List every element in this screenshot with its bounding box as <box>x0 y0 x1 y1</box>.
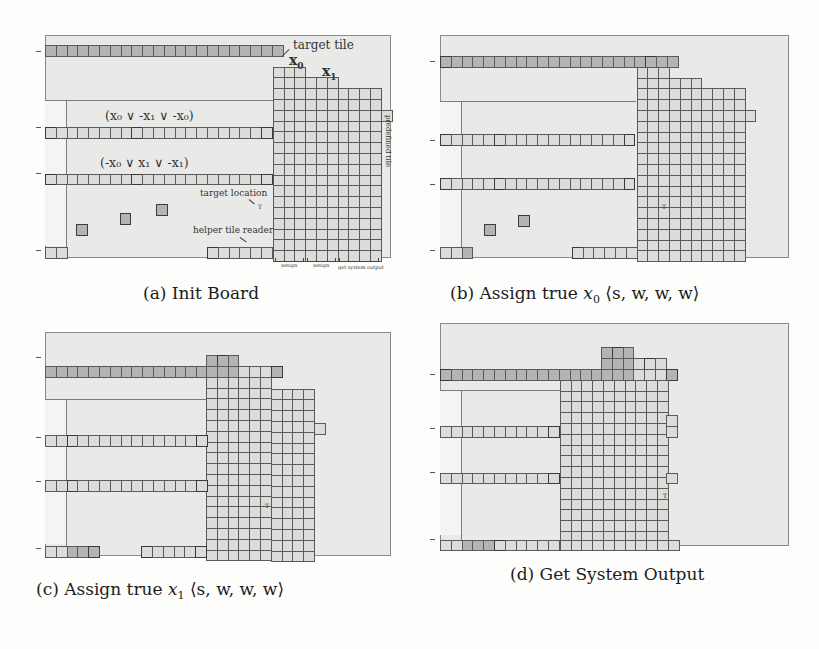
caption-b: (b) Assign true x0 ⟨s, w, w, w⟩ <box>450 283 699 306</box>
helper-reader-tile <box>261 247 273 259</box>
predefined-tile <box>314 423 326 435</box>
x1-label: x1 <box>322 63 337 82</box>
helper-tile <box>76 224 88 236</box>
bottom-row-tile <box>548 540 560 552</box>
helper-tile <box>484 224 496 236</box>
helper-reader-tile <box>626 247 638 259</box>
row-tick <box>36 548 41 549</box>
target-location-label: target location <box>200 188 267 198</box>
bottom-row-tile <box>88 546 100 558</box>
assign-label-1: assign <box>281 262 297 268</box>
caption-d: (d) Get System Output <box>510 564 704 584</box>
row-tick <box>430 250 435 251</box>
caption-c: (c) Assign true x1 ⟨s, w, w, w⟩ <box>36 579 284 602</box>
output-column-tile <box>734 250 746 262</box>
lane-divider <box>45 399 208 400</box>
predefined-tile <box>745 110 757 122</box>
row-tick <box>430 374 435 375</box>
clause-extension-tile <box>666 426 678 438</box>
left-lane <box>45 400 66 544</box>
clause-2-label: (-x₀ ∨ x₁ ∨ -x₁) <box>100 155 189 170</box>
left-lane <box>440 391 461 535</box>
clause-row-tile <box>548 426 560 438</box>
target-location-marker: T <box>258 203 262 210</box>
bottom-row-tile <box>56 247 68 259</box>
row-tick <box>36 173 41 174</box>
clause-row-tile <box>196 435 208 447</box>
get-system-output-label: get system output <box>338 264 384 270</box>
target-tile-row <box>271 366 283 378</box>
helper-reader-tile <box>195 546 207 558</box>
target-tile-label: target tile <box>293 38 354 52</box>
row-tick <box>430 539 435 540</box>
row-tick <box>36 51 41 52</box>
row-tick <box>36 437 41 438</box>
clause-row-tile <box>196 480 208 492</box>
clause-1-label: (x₀ ∨ -x₁ ∨ -x₀) <box>105 108 194 123</box>
target-location-marker: T <box>663 492 667 499</box>
row-tick <box>430 61 435 62</box>
row-tick <box>430 428 435 429</box>
clause-extension-tile <box>666 473 678 485</box>
row-tick <box>36 481 41 482</box>
target-location-marker: T <box>662 203 666 210</box>
clause-row-tile <box>624 178 636 190</box>
clause-row-tile <box>548 473 560 485</box>
helper-tile <box>518 215 530 227</box>
lane-divider-vertical <box>66 399 67 556</box>
helper-tile <box>120 213 132 225</box>
row-tick <box>36 127 41 128</box>
bottom-row-tile <box>462 247 474 259</box>
x0-label: x0 <box>289 52 304 71</box>
row-tick <box>36 250 41 251</box>
helper-tile <box>156 204 168 216</box>
target-location-marker: T <box>265 502 269 509</box>
predefined-tile-label: predefined tile <box>384 115 392 167</box>
assign-label-2: assign <box>313 262 329 268</box>
clause-row-tile <box>261 127 273 139</box>
output-column-tile <box>303 551 315 563</box>
clause-row-tile <box>624 134 636 146</box>
left-lane <box>440 102 461 247</box>
row-tick <box>430 140 435 141</box>
get-system-output-brace <box>339 258 379 262</box>
lane-divider-vertical <box>461 390 462 546</box>
row-tick <box>430 472 435 473</box>
clause-row-tile <box>261 174 273 186</box>
row-tick <box>36 357 41 358</box>
caption-a: (a) Init Board <box>143 283 259 303</box>
helper-tile-reader-label: helper tile reader <box>193 225 273 235</box>
lane-divider <box>440 101 636 102</box>
bottom-row-tile <box>668 540 680 552</box>
lane-divider <box>45 100 273 101</box>
row-tick <box>430 184 435 185</box>
